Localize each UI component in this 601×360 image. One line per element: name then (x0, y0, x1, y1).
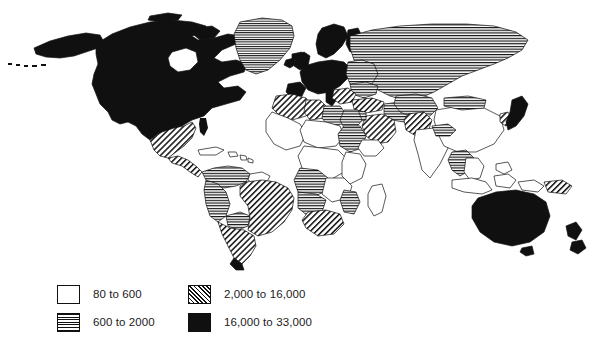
legend-item-80-to-600: 80 to 600 (57, 283, 155, 306)
world-choropleth-figure: 80 to 600 600 to 2000 2,000 to 16,000 16… (0, 0, 601, 360)
legend-label-600-to-2000: 600 to 2000 (93, 317, 155, 329)
legend-column-right: 2,000 to 16,000 16,000 to 33,000 (188, 283, 312, 339)
legend-column-left: 80 to 600 600 to 2000 (57, 283, 155, 339)
legend-swatch-horizontal-lines (57, 313, 80, 332)
legend-item-16000-to-33000: 16,000 to 33,000 (188, 311, 312, 334)
legend-label-2000-to-16000: 2,000 to 16,000 (224, 289, 305, 301)
legend-label-80-to-600: 80 to 600 (93, 289, 142, 301)
legend-item-600-to-2000: 600 to 2000 (57, 311, 155, 334)
legend-swatch-white (57, 285, 80, 304)
map-legend: 80 to 600 600 to 2000 2,000 to 16,000 16… (57, 283, 417, 339)
map-area (0, 0, 601, 272)
legend-item-2000-to-16000: 2,000 to 16,000 (188, 283, 312, 306)
world-map-svg (0, 0, 601, 272)
legend-label-16000-to-33000: 16,000 to 33,000 (224, 317, 312, 329)
legend-swatch-diagonal-hatch (188, 285, 211, 304)
legend-swatch-solid-black (188, 313, 211, 332)
